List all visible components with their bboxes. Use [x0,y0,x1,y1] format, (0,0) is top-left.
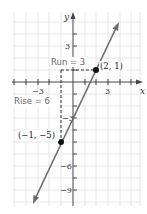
point-neg1-neg5-label: (−1, −5) [18,130,55,140]
y-tick-label-3: 3 [65,42,70,51]
run-label: Run = 3 [51,57,85,67]
y-tick-label-neg9: −9 [60,186,72,195]
x-tick-label-3: 3 [105,87,110,96]
y-tick-label-neg6: −6 [60,162,72,171]
coordinate-plane: −3 3 x y 3 −3 −6 −9 [0,0,147,214]
y-axis-label: y [63,12,70,22]
point-2-1 [93,67,99,73]
x-axis: −3 3 x [12,79,145,96]
rise-label: Rise = 6 [14,96,50,106]
x-tick-label-neg3: −3 [32,87,44,96]
point-2-1-label: (2, 1) [100,61,123,71]
y-axis: y 3 −3 −6 −9 [60,12,77,206]
line-graph [33,22,119,204]
y-axis-arrow-icon [71,12,76,19]
x-axis-label: x [140,86,145,96]
line-arrow-top-icon [113,22,120,31]
